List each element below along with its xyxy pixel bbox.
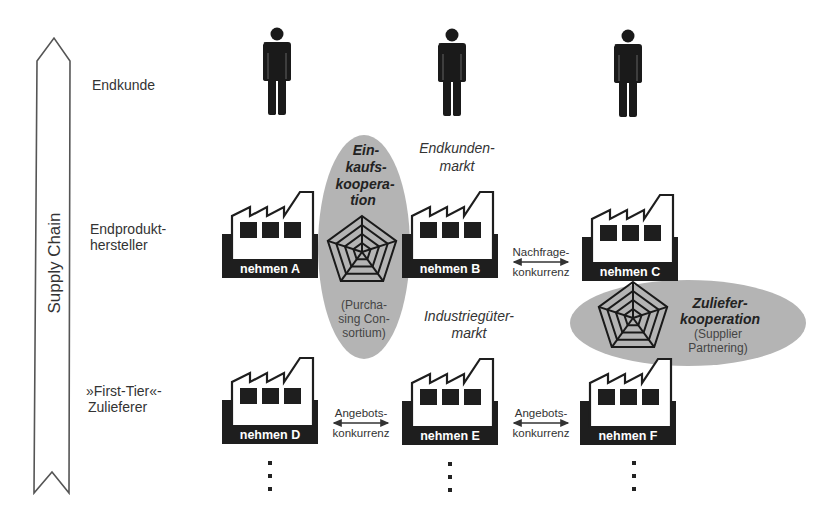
svg-text:konkurrenz: konkurrenz: [513, 427, 570, 439]
svg-text:Angebots-: Angebots-: [515, 407, 568, 419]
svg-text:Unter-: Unter-: [612, 249, 649, 263]
einkaufskooperation: Ein- kaufs- koopera- tion (Purcha- sing …: [318, 135, 410, 359]
company-e: Unter- nehmen E: [402, 359, 498, 445]
svg-text:kooperation: kooperation: [680, 311, 760, 327]
row-label-endprodukt-2: hersteller: [90, 237, 148, 253]
svg-text:(Purcha-: (Purcha-: [341, 298, 387, 312]
company-d: Unter- nehmen D: [222, 358, 318, 444]
industrie-markt-label-1: Industriegüter-: [424, 308, 514, 324]
svg-text:nehmen D: nehmen D: [240, 428, 300, 442]
svg-text:Ein-: Ein-: [353, 142, 380, 158]
svg-text:nehmen C: nehmen C: [600, 265, 660, 279]
svg-text:kaufs-: kaufs-: [345, 159, 387, 175]
endkundenmarkt-label-2: markt: [440, 158, 476, 174]
angebotskonkurrenz-ef: Angebots- konkurrenz: [513, 407, 570, 439]
person-icon: [614, 30, 642, 118]
supply-chain-diagram: Supply Chain Endkunde Endprodukt- herste…: [0, 0, 833, 526]
row-label-endkunde: Endkunde: [92, 77, 155, 93]
svg-text:Unter-: Unter-: [432, 246, 469, 260]
svg-text:sortium): sortium): [342, 326, 385, 340]
svg-text:Nachfrage-: Nachfrage-: [513, 246, 570, 258]
person-icon: [263, 28, 291, 116]
company-b: Unter- nehmen B: [402, 192, 498, 278]
svg-text:nehmen E: nehmen E: [420, 429, 480, 443]
svg-text:Unter-: Unter-: [610, 413, 647, 427]
endkundenmarkt-label-1: Endkunden-: [419, 140, 495, 156]
row-label-first-tier-1: »First-Tier«-: [86, 383, 162, 399]
svg-text:Zuliefer-: Zuliefer-: [691, 295, 748, 311]
angebotskonkurrenz-de: Angebots- konkurrenz: [333, 407, 390, 439]
svg-text:(Supplier: (Supplier: [694, 327, 742, 341]
company-f: Unter- nehmen F: [580, 359, 676, 445]
zulieferkooperation: Zuliefer- kooperation (Supplier Partneri…: [570, 280, 806, 366]
industrie-markt-label-2: markt: [452, 325, 488, 341]
svg-text:Partnering): Partnering): [688, 341, 747, 355]
svg-text:Angebots-: Angebots-: [335, 407, 388, 419]
svg-text:koopera-: koopera-: [335, 176, 394, 192]
row-label-endprodukt-1: Endprodukt-: [90, 221, 167, 237]
svg-text:konkurrenz: konkurrenz: [333, 427, 390, 439]
svg-text:konkurrenz: konkurrenz: [513, 266, 570, 278]
continuation-dots: [268, 461, 636, 492]
company-a: Unter- nehmen A: [222, 192, 318, 278]
supply-chain-label: Supply Chain: [45, 212, 64, 313]
svg-text:Unter-: Unter-: [252, 412, 289, 426]
svg-text:tion: tion: [350, 192, 376, 208]
person-icon: [438, 29, 466, 117]
svg-text:nehmen B: nehmen B: [420, 262, 480, 276]
svg-text:nehmen F: nehmen F: [598, 429, 657, 443]
row-label-first-tier-2: Zulieferer: [88, 399, 147, 415]
nachfragekonkurrenz: Nachfrage- konkurrenz: [513, 246, 570, 278]
supply-chain-arrow: Supply Chain: [34, 38, 70, 493]
svg-text:nehmen A: nehmen A: [240, 262, 300, 276]
company-c: Unter- nehmen C: [582, 195, 678, 281]
svg-text:Unter-: Unter-: [252, 246, 289, 260]
svg-text:sing Con-: sing Con-: [338, 312, 389, 326]
svg-text:Unter-: Unter-: [432, 413, 469, 427]
